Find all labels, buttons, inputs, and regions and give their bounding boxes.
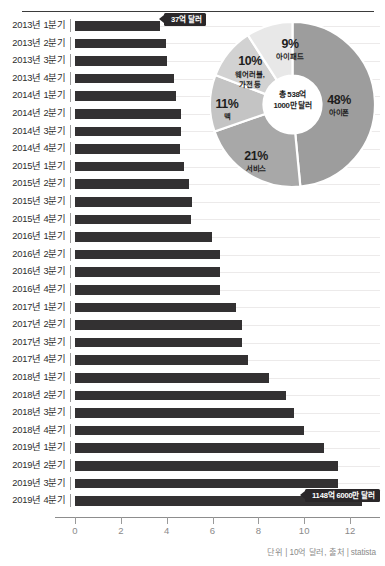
category-tick	[70, 371, 71, 384]
donut-name-wearables-line1: 웨어러블,	[221, 70, 279, 79]
category-tick	[70, 19, 71, 32]
category-tick	[70, 213, 71, 226]
bar	[75, 355, 248, 365]
x-axis-tick	[258, 517, 259, 524]
bar-row: 2017년 2분기	[0, 316, 385, 334]
donut-label-ipad: 9% 아이패드	[266, 38, 314, 61]
bar	[75, 74, 174, 84]
bar-category-label: 2019년 3분기	[0, 475, 66, 493]
donut-label-mac: 11% 맥	[202, 98, 252, 121]
bar-category-label: 2016년 3분기	[0, 263, 66, 281]
bar-row: 2019년 2분기	[0, 457, 385, 475]
bar	[75, 426, 304, 436]
x-axis-tick	[167, 517, 168, 524]
bar-category-label: 2015년 4분기	[0, 211, 66, 229]
category-tick	[70, 195, 71, 208]
donut-pct-services: 21%	[228, 150, 284, 164]
donut-chart: 48% 아이폰 21% 서비스 11% 맥 10% 웨어러블, 가전 등 9% …	[210, 22, 375, 187]
x-axis-tick	[121, 517, 122, 524]
bar-category-label: 2015년 3분기	[0, 193, 66, 211]
category-tick	[70, 125, 71, 138]
bar-category-label: 2014년 1분기	[0, 87, 66, 105]
donut-label-services: 21% 서비스	[228, 150, 284, 173]
bar	[75, 285, 220, 295]
bar-category-label: 2013년 3분기	[0, 52, 66, 70]
category-tick	[70, 494, 71, 507]
category-tick	[70, 54, 71, 67]
category-tick	[70, 477, 71, 490]
category-tick	[70, 318, 71, 331]
donut-name-mac: 맥	[202, 113, 252, 121]
bar-category-label: 2017년 2분기	[0, 316, 66, 334]
category-tick	[70, 248, 71, 261]
bar	[75, 461, 338, 471]
x-axis-tick-label: 4	[164, 525, 169, 536]
bar-row: 2018년 2분기	[0, 387, 385, 405]
bar-category-label: 2019년 2분기	[0, 457, 66, 475]
x-axis-tick	[213, 517, 214, 524]
bar-category-label: 2013년 2분기	[0, 35, 66, 53]
category-tick	[70, 107, 71, 120]
x-axis-tick	[350, 517, 351, 524]
bar-row: 2018년 4분기	[0, 422, 385, 440]
x-axis-tick-label: 6	[210, 525, 215, 536]
source-note: 단위 | 10억 달러, 출처 | statista	[267, 545, 376, 557]
bar-category-label: 2018년 3분기	[0, 404, 66, 422]
header-divider	[22, 11, 374, 12]
donut-center-line2: 1000만 달러	[260, 101, 325, 112]
bar-category-label: 2017년 1분기	[0, 299, 66, 317]
category-tick	[70, 424, 71, 437]
bar	[75, 215, 191, 225]
category-tick	[70, 142, 71, 155]
bar	[75, 267, 220, 277]
category-tick	[70, 353, 71, 366]
bar-category-label: 2017년 3분기	[0, 334, 66, 352]
donut-center-total: 총 538억 1000만 달러	[260, 90, 325, 111]
bar-row: 2016년 2분기	[0, 246, 385, 264]
category-tick	[70, 283, 71, 296]
bar	[75, 179, 189, 189]
infographic-root: 2013년 1분기2013년 2분기2013년 3분기2013년 4분기2014…	[0, 0, 385, 566]
bar-category-label: 2015년 1분기	[0, 158, 66, 176]
bar	[75, 232, 212, 242]
bar-row: 2017년 1분기	[0, 299, 385, 317]
bar	[75, 91, 176, 101]
bar	[75, 338, 242, 348]
bar	[75, 21, 160, 31]
category-tick	[70, 72, 71, 85]
x-axis-tick-label: 2	[118, 525, 123, 536]
category-tick	[70, 160, 71, 173]
bar-row: 2016년 3분기	[0, 263, 385, 281]
category-tick	[70, 89, 71, 102]
category-tick	[70, 230, 71, 243]
bar-row: 2018년 1분기	[0, 369, 385, 387]
bar-category-label: 2016년 1분기	[0, 228, 66, 246]
callout-first-value: 37억 달러	[164, 13, 206, 26]
x-axis-tick-label: 8	[256, 525, 261, 536]
bar-row: 2015년 4분기	[0, 211, 385, 229]
bar-category-label: 2014년 2분기	[0, 105, 66, 123]
category-tick	[70, 265, 71, 278]
x-axis-tick-label: 0	[72, 525, 77, 536]
x-axis-tick	[304, 517, 305, 524]
bar-row: 2017년 3분기	[0, 334, 385, 352]
bar-category-label: 2016년 2분기	[0, 246, 66, 264]
bar-category-label: 2013년 1분기	[0, 17, 66, 35]
category-tick	[70, 389, 71, 402]
category-tick	[70, 336, 71, 349]
donut-name-wearables-line2: 가전 등	[221, 80, 279, 89]
bar-category-label: 2016년 4분기	[0, 281, 66, 299]
callout-last-value: 1148억 6000만 달러	[305, 489, 380, 502]
bar-category-label: 2015년 2분기	[0, 175, 66, 193]
donut-name-services: 서비스	[228, 165, 284, 173]
bar	[75, 443, 324, 453]
x-axis-tick	[75, 517, 76, 524]
bar-category-label: 2014년 3분기	[0, 123, 66, 141]
bar	[75, 162, 184, 172]
bar-category-label: 2019년 1분기	[0, 439, 66, 457]
donut-name-ipad: 아이패드	[266, 53, 314, 61]
bar	[75, 197, 192, 207]
donut-pct-mac: 11%	[202, 98, 252, 112]
bar	[75, 56, 167, 66]
bar	[75, 373, 269, 383]
